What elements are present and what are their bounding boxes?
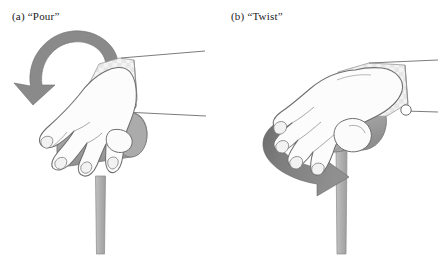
twist-cuff-button — [401, 105, 411, 115]
pour-hand — [39, 67, 136, 176]
figure-container: (a) “Pour” — [0, 0, 438, 256]
panel-twist: (b) “Twist” — [219, 0, 438, 256]
pour-post — [96, 176, 106, 254]
twist-illustration — [219, 0, 438, 256]
panel-pour: (a) “Pour” — [0, 0, 219, 256]
pour-illustration — [0, 0, 219, 256]
twist-post — [336, 148, 347, 254]
